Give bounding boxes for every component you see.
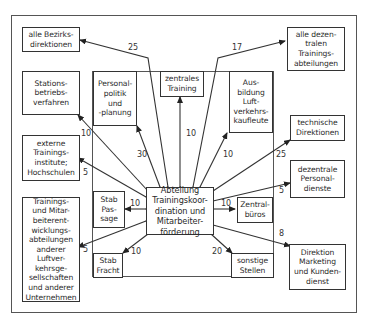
node-zentrales-training: zentrales Training bbox=[160, 71, 204, 97]
node-direktion-marketing: Direktion Marketing und Kunden- dienst bbox=[289, 244, 346, 290]
node-technische-direktionen: technische Direktionen bbox=[290, 115, 345, 141]
node-personalpolitik: Personal- politik und -planung bbox=[93, 71, 137, 126]
center-node-training-coordination: Abteilung Trainingskoor- dination und Mi… bbox=[146, 187, 214, 235]
edge-label-bezirksdirektionen: 25 bbox=[128, 43, 138, 52]
edge-label-personalpolitik: 30 bbox=[137, 150, 147, 159]
edge-label-andere-luftverkehr: 5 bbox=[83, 245, 88, 254]
node-stationsbetriebsverfahren: Stations- betriebs- verfahren bbox=[22, 71, 80, 115]
edge-label-dezentrale-personal: 5 bbox=[279, 186, 284, 195]
edge-label-ausbildung: 10 bbox=[223, 150, 233, 159]
node-sonstige-stellen: sonstige Stellen bbox=[231, 253, 274, 278]
node-externe-trainingsinstitute: externe Trainings- institute; Hochschule… bbox=[22, 135, 80, 181]
edge-label-stab-fracht: 10 bbox=[131, 247, 141, 256]
edge-label-zentrales-training: 10 bbox=[186, 129, 196, 138]
node-zentralbueros: Zentral- büros bbox=[237, 197, 273, 223]
edge-label-stab-passage: 10 bbox=[130, 199, 140, 208]
edge-label-dezentrale-training: 17 bbox=[232, 43, 242, 52]
edge-label-sonstige: 20 bbox=[212, 247, 222, 256]
node-dezentrale-personaldienste: dezentrale Personal- dienste bbox=[290, 160, 345, 198]
edge-label-stationsbetrieb: 10 bbox=[81, 129, 91, 138]
node-stab-passage: Stab Pas- sage bbox=[93, 191, 125, 228]
edge-label-direktion-marketing: 8 bbox=[279, 229, 284, 238]
node-stab-fracht: Stab Fracht bbox=[93, 253, 123, 278]
edge-label-technische-direktionen: 25 bbox=[276, 150, 286, 159]
node-ausbildung-luftverkehrskaufleute: Aus- bildung Luft- verkehrs- kaufleute bbox=[229, 71, 273, 133]
node-dezentrale-trainingsabteilungen: alle dezen- tralen Trainings- abteilunge… bbox=[287, 27, 345, 71]
edge-label-externe-institute: 5 bbox=[83, 168, 88, 177]
node-andere-luftverkehrsgesellschaften: Trainings- und Mitar- beiterent- wicklun… bbox=[22, 197, 80, 302]
edge-label-zentralbueros: 10 bbox=[221, 199, 231, 208]
node-bezirksdirektionen: alle Bezirks- direktionen bbox=[22, 27, 80, 52]
